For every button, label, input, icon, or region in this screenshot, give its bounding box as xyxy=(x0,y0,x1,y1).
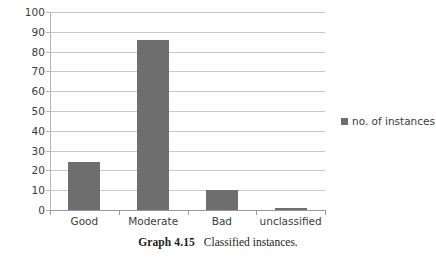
x-tick-1 xyxy=(119,211,120,215)
y-tick-label-60: 60 xyxy=(5,86,45,97)
y-tick-label-40: 40 xyxy=(5,126,45,137)
x-tick-3 xyxy=(256,211,257,215)
x-tick-0 xyxy=(50,211,51,215)
x-tick-label-bad: Bad xyxy=(188,216,257,228)
x-tick-label-good: Good xyxy=(50,216,119,228)
figure: 1009080706050403020100 GoodModerateBadun… xyxy=(0,0,436,259)
y-tick-label-20: 20 xyxy=(5,165,45,176)
x-tick-2 xyxy=(188,211,189,215)
caption-label: Graph 4.15 xyxy=(138,236,195,248)
legend-entry-label: no. of instances xyxy=(352,116,435,127)
bar-good xyxy=(68,162,100,210)
bar-bad xyxy=(206,190,238,210)
bar-moderate xyxy=(137,40,169,210)
x-tick-4 xyxy=(325,211,326,215)
bar-chart: 1009080706050403020100 GoodModerateBadun… xyxy=(0,0,436,232)
figure-caption: Graph 4.15Classified instances. xyxy=(0,236,436,250)
x-tick-label-unclassified: unclassified xyxy=(256,216,325,228)
y-tick-label-90: 90 xyxy=(5,27,45,38)
plot-area xyxy=(50,12,325,210)
chart-legend: no. of instances xyxy=(341,116,435,127)
legend-swatch-icon xyxy=(341,118,348,125)
y-tick-label-0: 0 xyxy=(5,205,45,216)
y-tick-label-80: 80 xyxy=(5,47,45,58)
y-tick-label-70: 70 xyxy=(5,66,45,77)
y-tick-label-50: 50 xyxy=(5,106,45,117)
caption-text: Classified instances. xyxy=(204,236,298,248)
x-tick-label-moderate: Moderate xyxy=(119,216,188,228)
y-tick-label-30: 30 xyxy=(5,146,45,157)
y-tick-label-10: 10 xyxy=(5,185,45,196)
y-tick-label-100: 100 xyxy=(5,7,45,18)
